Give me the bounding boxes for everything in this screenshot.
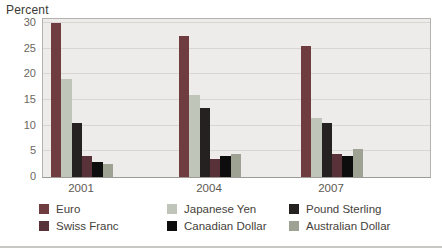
bar-euro-2001 — [51, 23, 61, 177]
legend-item-japanese-yen: Japanese Yen — [167, 203, 289, 215]
legend-item-canadian-dollar: Canadian Dollar — [167, 220, 289, 232]
legend-label-japanese-yen: Japanese Yen — [184, 203, 256, 215]
legend-swatch-japanese-yen — [167, 204, 177, 214]
bar-swiss-franc-2001 — [82, 156, 92, 177]
bar-pound-sterling-2001 — [72, 123, 82, 177]
y-tick-0: 0 — [30, 170, 36, 183]
bar-pound-sterling-2007 — [322, 123, 332, 177]
bar-canadian-dollar-2004 — [220, 156, 230, 177]
y-tick-20: 20 — [24, 67, 36, 80]
plot-area — [42, 18, 431, 178]
bar-group-2004 — [179, 19, 241, 177]
bar-group-2007 — [301, 19, 363, 177]
bar-group-2001 — [51, 19, 113, 177]
bar-japanese-yen-2001 — [61, 79, 71, 177]
legend-swatch-pound-sterling — [289, 204, 299, 214]
legend-swatch-canadian-dollar — [167, 221, 177, 231]
y-tick-10: 10 — [24, 119, 36, 132]
bar-australian-dollar-2001 — [103, 164, 113, 177]
legend-item-swiss-franc: Swiss Franc — [39, 220, 167, 232]
legend-label-euro: Euro — [56, 203, 80, 215]
legend-label-swiss-franc: Swiss Franc — [56, 220, 119, 232]
y-tick-30: 30 — [24, 16, 36, 29]
y-tick-5: 5 — [30, 144, 36, 157]
x-label-2001: 2001 — [50, 182, 112, 194]
legend-label-pound-sterling: Pound Sterling — [306, 203, 381, 215]
legend-label-australian-dollar: Australian Dollar — [306, 220, 390, 232]
legend-label-canadian-dollar: Canadian Dollar — [184, 220, 266, 232]
bar-euro-2004 — [179, 36, 189, 177]
y-axis: 051015202530 — [0, 19, 39, 177]
legend-item-australian-dollar: Australian Dollar — [289, 220, 390, 232]
bottom-divider — [0, 246, 442, 248]
y-tick-25: 25 — [24, 42, 36, 55]
bar-australian-dollar-2004 — [231, 154, 241, 177]
bar-japanese-yen-2004 — [189, 95, 199, 177]
y-axis-title: Percent — [6, 3, 49, 17]
currency-share-bar-chart: Percent 051015202530 EuroJapanese YenPou… — [0, 0, 442, 251]
y-tick-15: 15 — [24, 93, 36, 106]
legend-swatch-swiss-franc — [39, 221, 49, 231]
bar-swiss-franc-2004 — [210, 159, 220, 177]
bar-japanese-yen-2007 — [311, 118, 321, 177]
bar-pound-sterling-2004 — [200, 108, 210, 177]
bar-swiss-franc-2007 — [332, 154, 342, 177]
x-label-2007: 2007 — [300, 182, 362, 194]
legend: EuroJapanese YenPound SterlingSwiss Fran… — [39, 203, 390, 232]
x-label-2004: 2004 — [178, 182, 240, 194]
legend-swatch-australian-dollar — [289, 221, 299, 231]
legend-item-pound-sterling: Pound Sterling — [289, 203, 390, 215]
bar-australian-dollar-2007 — [353, 149, 363, 177]
bar-euro-2007 — [301, 46, 311, 177]
legend-item-euro: Euro — [39, 203, 167, 215]
legend-swatch-euro — [39, 204, 49, 214]
bar-canadian-dollar-2001 — [92, 162, 102, 177]
bar-canadian-dollar-2007 — [342, 156, 352, 177]
